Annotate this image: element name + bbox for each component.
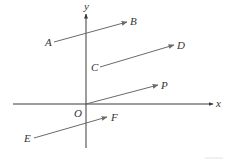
point-p-label: P xyxy=(160,79,168,91)
vector-ef-arrow xyxy=(34,117,107,138)
vector-diagram: x y O A B C D P E F xyxy=(0,0,233,160)
origin-label: O xyxy=(74,107,82,119)
vector-ab: A B xyxy=(44,15,137,48)
y-axis-label: y xyxy=(83,0,89,12)
point-b-label: B xyxy=(130,15,137,27)
vector-cd-arrow xyxy=(100,45,174,67)
point-c-label: C xyxy=(91,61,99,73)
point-d-label: D xyxy=(176,39,185,51)
point-a-label: A xyxy=(44,36,52,48)
vector-op-arrow xyxy=(86,85,158,104)
x-axis-label: x xyxy=(215,97,221,109)
point-e-label: E xyxy=(23,132,31,144)
vector-op: P xyxy=(86,79,168,104)
point-f-label: F xyxy=(110,111,118,123)
vector-cd: C D xyxy=(91,39,185,73)
vector-ab-arrow xyxy=(54,22,127,42)
vector-ef: E F xyxy=(23,111,118,144)
